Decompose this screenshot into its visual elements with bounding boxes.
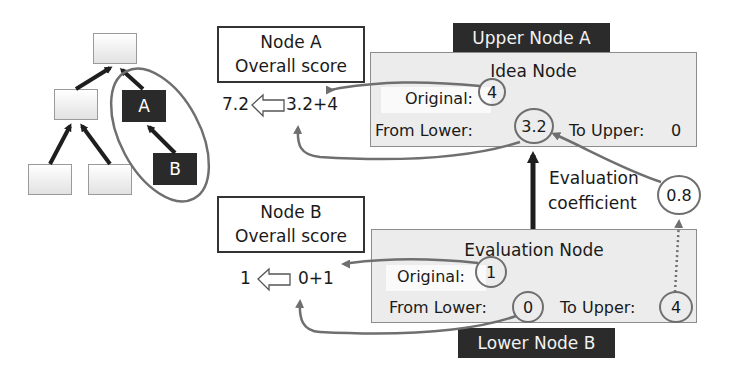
node-b-hollow-arrow-icon xyxy=(258,269,290,290)
to-upper-dotted-arrow xyxy=(675,222,679,292)
node-a-hollow-arrow-icon xyxy=(252,95,284,116)
subtree-highlight-ellipse xyxy=(91,53,229,218)
connector-overlay xyxy=(0,0,736,371)
